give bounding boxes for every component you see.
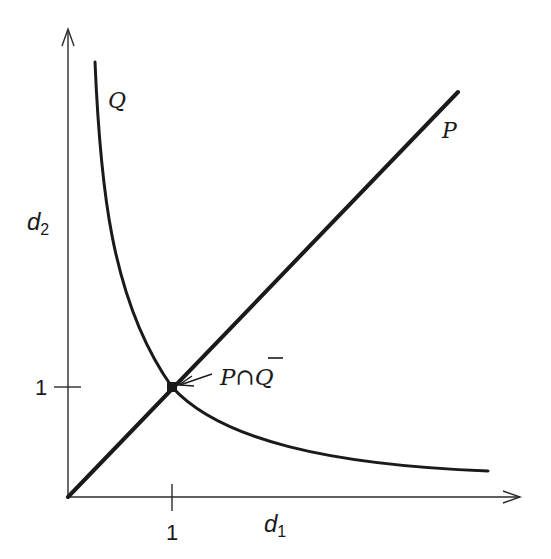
line-label: P xyxy=(441,118,458,143)
x-axis-label: d1 xyxy=(264,510,286,540)
intersection-label: P∩Q xyxy=(219,358,283,390)
diagram-canvas: 1 1 d1 d2 Q P P∩Q xyxy=(0,0,551,559)
y-tick-label: 1 xyxy=(35,375,47,400)
intersection-label-q: Q xyxy=(255,364,274,390)
intersection-point xyxy=(167,382,177,392)
y-axis xyxy=(62,29,74,497)
y-axis-label: d2 xyxy=(27,208,49,238)
svg-text:P∩Q: P∩Q xyxy=(219,364,274,390)
x-axis-label-sub: 1 xyxy=(277,523,286,540)
intersection-label-cap: ∩ xyxy=(235,364,254,390)
intersection-label-p: P xyxy=(219,364,236,390)
y-axis-label-main: d xyxy=(27,208,41,235)
y-axis-label-sub: 2 xyxy=(40,221,49,238)
hyperbola-label: Q xyxy=(108,88,126,113)
x-tick-label: 1 xyxy=(166,520,178,545)
x-axis xyxy=(68,491,520,503)
x-axis-label-main: d xyxy=(264,510,278,537)
